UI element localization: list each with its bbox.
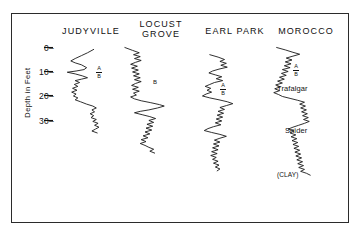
marker-label-morocco-ab: A B xyxy=(289,64,303,78)
marker-b: B xyxy=(221,90,225,96)
marker-label-locust-grove-b: B xyxy=(150,79,160,85)
marker-a: A xyxy=(294,63,298,69)
unit-label-snider: Snider xyxy=(285,126,307,135)
stratigraphic-correlation-figure: JUDYVILLE LOCUST GROVE EARL PARK MOROCCO… xyxy=(0,0,360,237)
marker-a: A xyxy=(97,65,101,71)
depth-tick-10: 10– xyxy=(28,67,54,77)
depth-tick-20: 20– xyxy=(28,91,54,101)
marker-b: B xyxy=(294,71,298,77)
marker-label-judyville-ab: A B xyxy=(92,66,106,80)
column-header-morocco: MOROCCO xyxy=(263,26,349,36)
depth-tick-0: 0– xyxy=(28,43,54,53)
unit-label-clay: (CLAY) xyxy=(277,171,298,178)
unit-label-trafalgar: Trafalgar xyxy=(277,84,308,93)
figure-border xyxy=(11,13,349,223)
marker-label-earl-park-ab: A B xyxy=(216,83,230,97)
depth-tick-30: 30– xyxy=(28,116,54,126)
marker-a: A xyxy=(221,82,225,88)
marker-b: B xyxy=(97,73,101,79)
